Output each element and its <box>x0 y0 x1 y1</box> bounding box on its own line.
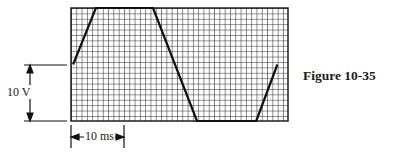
voltage-scale-label: 10 V <box>6 85 31 99</box>
arrow-right-icon <box>116 134 124 140</box>
figure-caption: Figure 10-35 <box>303 68 376 84</box>
graticule <box>71 8 288 121</box>
arrow-down-icon <box>27 113 33 121</box>
time-scale-label: 10 ms <box>84 129 115 143</box>
arrow-left-icon <box>71 134 79 140</box>
arrow-up-icon <box>27 65 33 73</box>
